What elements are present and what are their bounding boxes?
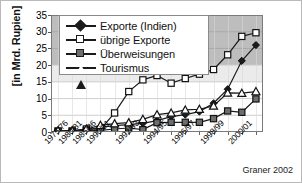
legend-item-label: Überweisungen bbox=[96, 48, 175, 60]
legend-item[interactable]: Überweisungen bbox=[60, 47, 208, 61]
legend-item-label: Exporte (Indien) bbox=[96, 20, 177, 32]
legend-item[interactable]: übrige Exporte bbox=[60, 33, 208, 47]
open-triangle-icon bbox=[66, 62, 96, 74]
filled-square-icon bbox=[66, 48, 96, 60]
chart-legend: Exporte (Indien) übrige Exporte Überweis… bbox=[59, 15, 209, 75]
x-tick-mark bbox=[115, 132, 116, 135]
legend-item[interactable]: Exporte (Indien) bbox=[60, 19, 208, 33]
x-tick-label: 1996/97 bbox=[169, 118, 197, 146]
chart-figure: [in Mrd. Rupien] 05101520253035 1975/761… bbox=[0, 0, 302, 183]
x-tick-mark bbox=[256, 132, 257, 135]
x-tick-label: 1998/99 bbox=[198, 118, 226, 146]
x-tick-label: 1992/93 bbox=[113, 118, 141, 146]
legend-item-label: übrige Exporte bbox=[96, 34, 170, 46]
legend-item-label: Tourismus bbox=[96, 62, 149, 74]
x-tick-label: 2000/01 bbox=[226, 118, 254, 146]
legend-item[interactable]: Tourismus bbox=[60, 61, 208, 75]
x-tick-mark bbox=[199, 132, 200, 135]
source-credit: Graner 2002 bbox=[242, 165, 293, 175]
open-square-icon bbox=[66, 34, 96, 46]
filled-diamond-icon bbox=[66, 20, 96, 32]
x-tick-label: 1994/95 bbox=[141, 118, 169, 146]
